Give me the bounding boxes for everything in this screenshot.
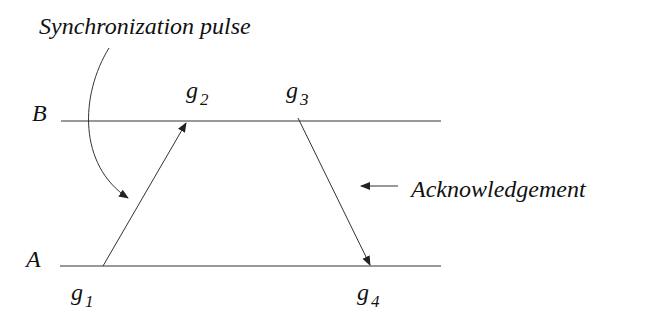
event-g3-label: g3 (286, 78, 309, 102)
sync-pulse-arrow (103, 123, 186, 266)
event-g2-label: g2 (186, 78, 209, 102)
diagram-canvas (0, 0, 649, 325)
sync-pulse-label: Synchronization pulse (39, 14, 251, 38)
event-g1-label: g1 (71, 280, 94, 304)
ack-label: Acknowledgement (411, 177, 586, 201)
process-b-label: B (32, 101, 47, 125)
sync-label-pointer-arrow (89, 48, 128, 198)
ack-message-arrow (298, 118, 370, 265)
process-a-label: A (26, 247, 41, 271)
event-g4-label: g4 (357, 280, 380, 304)
